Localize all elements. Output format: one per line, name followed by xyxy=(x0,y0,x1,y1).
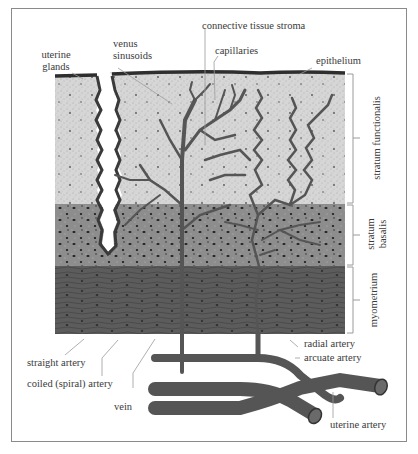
tissue-layers xyxy=(55,71,345,334)
label-uterine-glands: uterine glands xyxy=(34,49,78,73)
label-radial-artery: radial artery xyxy=(304,338,355,350)
label-line: venus xyxy=(113,38,152,50)
label-capillaries: capillaries xyxy=(215,45,258,57)
label-stratum-basalis: stratum basalis xyxy=(365,209,389,259)
label-venus-sinusoids: venus sinusoids xyxy=(113,38,152,62)
label-connective-tissue-stroma: connective tissue stroma xyxy=(202,20,305,32)
label-myometrium: myometrium xyxy=(368,265,380,335)
label-line: basalis xyxy=(377,209,389,259)
label-uterine-artery: uterine artery xyxy=(330,419,386,431)
label-line: sinusoids xyxy=(113,50,152,62)
label-arcuate-artery: arcuate artery xyxy=(304,352,361,364)
label-straight-artery: straight artery xyxy=(27,357,86,369)
label-line: stratum xyxy=(365,209,377,259)
label-line: glands xyxy=(34,61,78,73)
label-vein: vein xyxy=(114,401,132,413)
label-line: uterine xyxy=(34,49,78,61)
label-stratum-functionalis: stratum functionalis xyxy=(371,78,383,198)
label-coiled-artery: coiled (spiral) artery xyxy=(27,378,113,390)
layer-brackets xyxy=(347,74,360,333)
label-epithelium: epithelium xyxy=(316,55,361,67)
